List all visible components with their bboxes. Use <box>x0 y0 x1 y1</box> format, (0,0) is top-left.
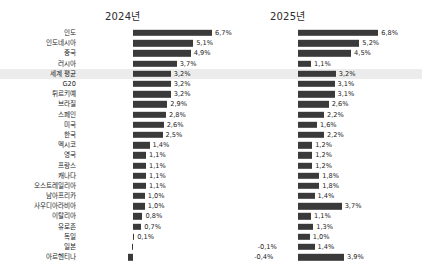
chart-row: 인도6,7%6,8% <box>0 28 422 38</box>
chart-row: 중국4,9%4,5% <box>0 48 422 58</box>
category-label: 브라질 <box>0 101 76 108</box>
chart-row: 튀르키예3,2%3,1% <box>0 89 422 99</box>
category-label: 스페인 <box>0 111 76 118</box>
bar-track-2024: -0,4% <box>133 252 281 262</box>
bar-2024 <box>133 60 177 66</box>
bar-value-2025: 2,2% <box>327 111 344 118</box>
category-label: 러시아 <box>0 60 76 67</box>
chart-row: 이탈리아0,8%1,1% <box>0 211 422 221</box>
bar-value-2024: 1,1% <box>149 152 166 159</box>
bar-value-2024: 0,8% <box>145 213 162 220</box>
bar-value-2024: 2,6% <box>167 121 184 128</box>
category-label: 한국 <box>0 132 76 139</box>
bar-track-2024: 0,8% <box>133 211 281 221</box>
bar-track-2024: 1,0% <box>133 201 281 211</box>
bar-2025 <box>298 183 319 189</box>
chart-rows: 인도6,7%6,8%인도네시아5,1%5,2%중국4,9%4,5%러시아3,7%… <box>0 28 422 262</box>
bar-track-2024: 2,8% <box>133 110 281 120</box>
chart-row: 오스트레일리아1,1%1,8% <box>0 181 422 191</box>
bar-value-2025: 1,2% <box>315 162 332 169</box>
bar-track-2024: 1,0% <box>133 191 281 201</box>
bar-track-2025: 2,6% <box>298 99 422 109</box>
category-label: 유로존 <box>0 223 76 230</box>
bar-value-2025: 3,2% <box>339 71 356 78</box>
bar-track-2024: 6,7% <box>133 28 281 38</box>
bar-track-2025: 3,1% <box>298 89 422 99</box>
bar-2024 <box>133 91 171 97</box>
bar-value-2024: 2,9% <box>170 101 187 108</box>
bar-2024 <box>133 111 166 117</box>
chart-row: 멕시코1,4%1,2% <box>0 140 422 150</box>
chart-row: 사우디아라비아1,0%3,7% <box>0 201 422 211</box>
bar-track-2025: 2,2% <box>298 110 422 120</box>
bar-2024 <box>133 152 146 158</box>
category-label: 영국 <box>0 152 76 159</box>
bar-track-2025: 3,2% <box>298 69 422 79</box>
bar-2024 <box>133 122 164 128</box>
category-label: 멕시코 <box>0 142 76 149</box>
bar-value-2024: 0,1% <box>137 234 154 241</box>
category-label: 캐나다 <box>0 172 76 179</box>
bar-2024 <box>133 213 142 219</box>
bar-value-2025: 2,2% <box>327 132 344 139</box>
category-label: 인도 <box>0 30 76 37</box>
category-label: 튀르키예 <box>0 91 76 98</box>
bar-value-2025: 3,1% <box>338 91 355 98</box>
bar-track-2024: 1,1% <box>133 171 281 181</box>
bar-track-2024: 5,1% <box>133 38 281 48</box>
chart-row: 미국2,6%1,6% <box>0 120 422 130</box>
bar-2024 <box>132 244 133 250</box>
bar-2025 <box>298 193 315 199</box>
bar-value-2025: 1,4% <box>318 244 335 251</box>
bar-2024 <box>133 183 146 189</box>
bar-value-2024: 4,9% <box>194 50 211 57</box>
bar-value-2024: 1,4% <box>153 142 170 149</box>
bar-value-2024: 3,2% <box>174 91 191 98</box>
bar-value-2025: 3,7% <box>345 203 362 210</box>
bar-value-2025: 3,9% <box>347 254 364 261</box>
bar-value-2025: 5,2% <box>362 40 379 47</box>
chart-row: 캐나다1,1%1,8% <box>0 171 422 181</box>
chart-row: 세계 평균3,2%3,2% <box>0 69 422 79</box>
category-label: 세계 평균 <box>0 71 76 78</box>
bar-value-2024: 3,2% <box>174 71 191 78</box>
bar-track-2025: 1,6% <box>298 120 422 130</box>
bar-2024 <box>133 81 171 87</box>
bar-track-2025: 3,9% <box>298 252 422 262</box>
bar-track-2024: 1,1% <box>133 150 281 160</box>
bar-2025 <box>298 234 310 240</box>
panel-title-2024: 2024년 <box>105 8 140 23</box>
bar-track-2025: 4,5% <box>298 48 422 58</box>
bar-2025 <box>298 50 351 56</box>
bar-2025 <box>298 223 313 229</box>
category-label: 중국 <box>0 50 76 57</box>
category-label: 프랑스 <box>0 162 76 169</box>
chart-row: 한국2,5%2,2% <box>0 130 422 140</box>
category-label: 아르헨티나 <box>0 254 76 261</box>
bar-value-2024: 2,8% <box>169 111 186 118</box>
bar-2024 <box>133 132 163 138</box>
bar-value-2025: 1,2% <box>315 142 332 149</box>
bar-track-2025: 1,4% <box>298 242 422 252</box>
bar-track-2024: 0,1% <box>133 232 281 242</box>
category-label: 인도네시아 <box>0 40 76 47</box>
bar-track-2025: 6,8% <box>298 28 422 38</box>
chart-row: 스페인2,8%2,2% <box>0 110 422 120</box>
bar-track-2024: 3,2% <box>133 79 281 89</box>
category-label: 오스트레일리아 <box>0 183 76 190</box>
bar-2024 <box>133 50 191 56</box>
bar-value-2024: 1,1% <box>149 172 166 179</box>
bar-2025 <box>298 254 344 260</box>
category-label: 미국 <box>0 121 76 128</box>
bar-track-2025: 1,8% <box>298 181 422 191</box>
bar-2025 <box>298 101 329 107</box>
chart-row: 아르헨티나-0,4%3,9% <box>0 252 422 262</box>
bar-value-2024: 1,0% <box>148 203 165 210</box>
bar-track-2024: 3,7% <box>133 59 281 69</box>
bar-2024 <box>128 254 133 260</box>
bar-track-2024: 1,1% <box>133 160 281 170</box>
bar-2025 <box>298 203 342 209</box>
bar-value-2025: 1,3% <box>316 223 333 230</box>
bar-value-2025: 6,8% <box>381 30 398 37</box>
